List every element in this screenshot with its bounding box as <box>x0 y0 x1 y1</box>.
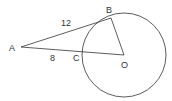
label-b: B <box>106 6 112 15</box>
label-a: A <box>9 44 15 53</box>
label-o: O <box>121 61 128 70</box>
diagram-canvas <box>0 0 172 101</box>
label-c: C <box>73 54 80 63</box>
segment-bo <box>111 18 124 55</box>
geometry-diagram: A B C O 12 8 <box>0 0 172 101</box>
length-ab: 12 <box>61 19 71 28</box>
length-ac: 8 <box>50 54 55 63</box>
